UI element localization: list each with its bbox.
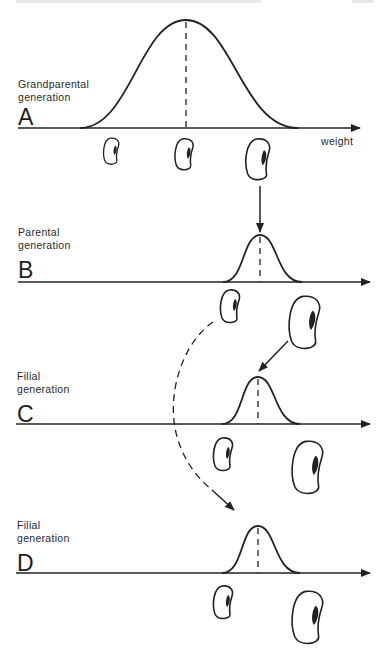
generation-label-a-line2: generation	[18, 91, 89, 104]
selection-arrow-b-to-c	[259, 341, 288, 371]
generation-label-a: Grandparental generation	[18, 78, 89, 104]
bean-icon-medium-a	[175, 139, 193, 170]
generation-label-c: Filial generation	[17, 370, 70, 396]
panel-letter-a: A	[18, 106, 33, 129]
generation-label-d-line1: Filial	[17, 519, 70, 532]
bean-icon-large-a	[246, 139, 270, 180]
weight-axis-label: weight	[321, 135, 353, 148]
bean-icon-small-c	[213, 438, 232, 471]
distribution-curve-c	[222, 377, 300, 424]
generation-label-c-line1: Filial	[17, 370, 70, 383]
bean-icon-large-c	[292, 441, 322, 493]
bean-icon-large-d	[292, 591, 322, 643]
generation-label-a-line1: Grandparental	[18, 78, 89, 91]
distribution-curve-a	[80, 20, 298, 128]
distribution-curve-b	[223, 235, 302, 282]
dashed-lineage-arrow-b-to-d	[173, 322, 213, 490]
distribution-curve-d	[222, 526, 300, 573]
generation-label-b-line1: Parental	[18, 226, 71, 239]
bean-icon-small-a	[104, 138, 119, 164]
bean-icon-large-b	[289, 296, 319, 348]
generation-label-d-line2: generation	[17, 532, 70, 545]
generation-label-c-line2: generation	[17, 383, 70, 396]
panel-letter-c: C	[17, 403, 34, 426]
generation-label-b-line2: generation	[18, 239, 71, 252]
bean-icon-small-d	[213, 586, 232, 619]
generation-label-b: Parental generation	[18, 226, 71, 252]
generation-label-d: Filial generation	[17, 519, 70, 545]
panel-letter-b: B	[18, 259, 33, 282]
panel-letter-d: D	[17, 552, 34, 575]
dashed-lineage-arrowhead	[212, 490, 234, 510]
panel-b	[18, 235, 370, 348]
bean-icon-small-b	[220, 290, 239, 323]
